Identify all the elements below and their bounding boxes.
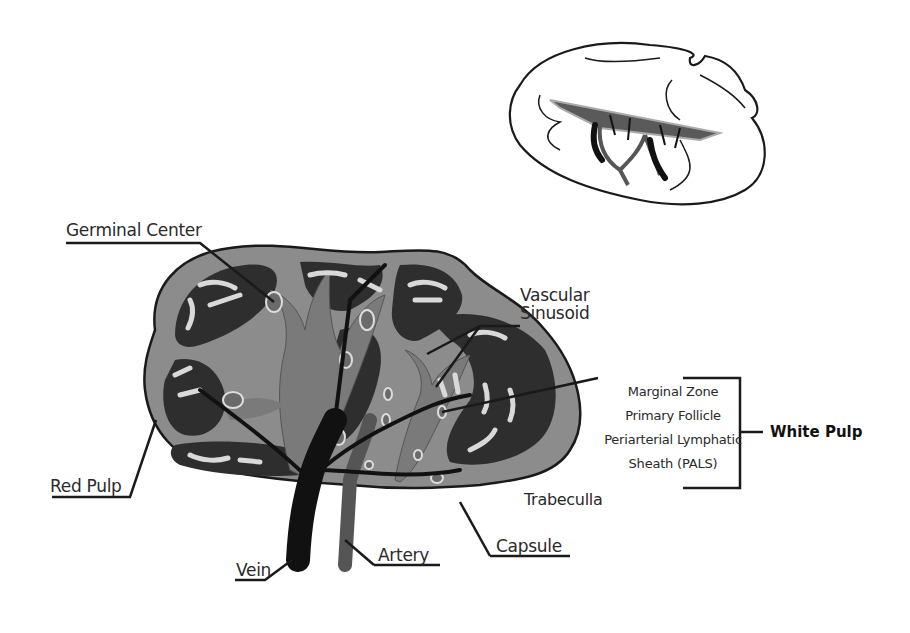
spleen-diagram	[0, 0, 910, 633]
label-primary-follicle: Primary Follicle	[598, 404, 748, 428]
white-pulp-components: Marginal Zone Primary Follicle Periarter…	[598, 380, 748, 476]
label-germinal-center: Germinal Center	[66, 220, 202, 240]
spleen-inset-illustration	[510, 43, 765, 204]
label-trabeculla: Trabeculla	[524, 490, 602, 509]
label-vascular-sinusoid: Vascular Sinusoid	[520, 286, 589, 322]
label-red-pulp: Red Pulp	[50, 476, 122, 496]
label-vein: Vein	[236, 560, 271, 580]
label-capsule: Capsule	[496, 536, 562, 556]
label-white-pulp: White Pulp	[770, 423, 862, 441]
spleen-main-illustration	[144, 246, 580, 565]
label-pals-line2: Sheath (PALS)	[598, 452, 748, 476]
label-artery: Artery	[378, 545, 429, 565]
label-pals-line1: Periarterial Lymphatic	[598, 428, 748, 452]
label-marginal-zone: Marginal Zone	[598, 380, 748, 404]
label-vascular-sinusoid-line1: Vascular	[520, 285, 589, 305]
label-vascular-sinusoid-line2: Sinusoid	[520, 303, 589, 323]
